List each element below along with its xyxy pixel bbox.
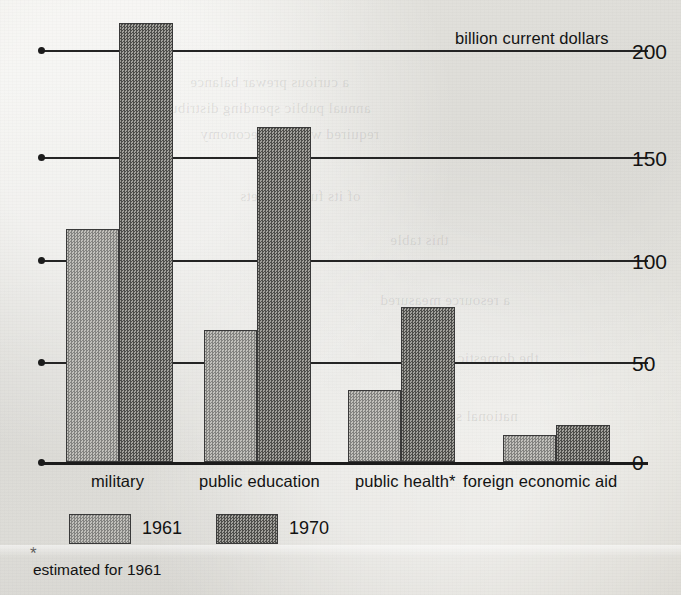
- axis-endpoint-dot: [38, 47, 45, 54]
- category-label-public-health: public health*: [355, 472, 455, 491]
- legend-swatch-1970: [216, 514, 278, 544]
- category-label-public-education: public education: [199, 472, 320, 491]
- bar-foreign-economic-aid-1961[interactable]: [503, 435, 556, 462]
- axis-endpoint-dot: [38, 257, 45, 264]
- bar-public-health-1970[interactable]: [401, 307, 455, 462]
- axis-endpoint-dot: [38, 359, 45, 366]
- bar-military-1970[interactable]: [119, 23, 173, 462]
- category-label-foreign-economic-aid: foreign economic aid: [463, 472, 617, 491]
- category-label-military: military: [91, 472, 144, 491]
- y-tick-label-200: 200: [632, 41, 667, 62]
- y-tick-label-150: 150: [632, 148, 667, 169]
- y-tick-label-100: 100: [632, 251, 667, 272]
- y-tick-label-50: 50: [632, 353, 655, 374]
- bar-public-education-1961[interactable]: [204, 330, 257, 462]
- bar-public-health-1961[interactable]: [348, 390, 401, 462]
- unit-label: billion current dollars: [455, 29, 609, 48]
- bar-public-education-1970[interactable]: [257, 127, 311, 462]
- axis-baseline: [40, 462, 648, 465]
- plot-area: billion current dollars 200 150 100 50 0: [0, 0, 681, 595]
- footnote-text: estimated for 1961: [33, 561, 161, 579]
- legend-label-1970: 1970: [289, 518, 329, 539]
- y-tick-label-0: 0: [632, 452, 644, 473]
- legend-label-1961: 1961: [142, 518, 182, 539]
- bar-foreign-economic-aid-1970[interactable]: [556, 425, 610, 462]
- axis-endpoint-dot: [38, 154, 45, 161]
- legend-swatch-1961: [69, 514, 131, 544]
- bar-military-1961[interactable]: [66, 229, 119, 462]
- bar-chart: billion current dollars 200 150 100 50 0: [0, 0, 681, 595]
